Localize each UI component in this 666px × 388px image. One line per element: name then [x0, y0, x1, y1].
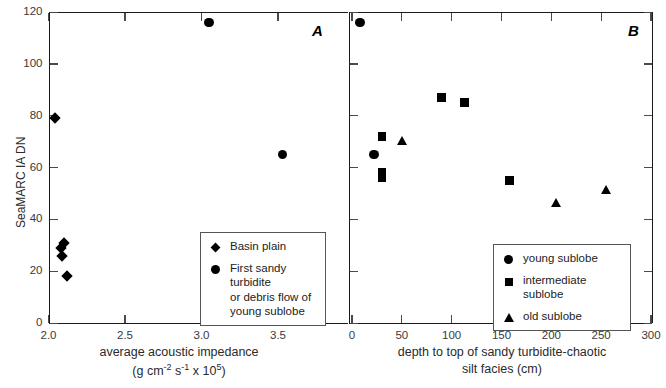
legend-item: intermediate sublobe — [502, 273, 621, 302]
x-tick-label: 2.0 — [29, 329, 69, 341]
y-tick — [50, 12, 58, 13]
data-point-circle — [355, 18, 365, 28]
x-tick — [401, 13, 402, 21]
legend-item-label: intermediate sublobe — [523, 273, 621, 302]
x-tick-label: 150 — [482, 329, 522, 341]
figure-root: SeaMARC IA DN A B 020406080100120 2.02.5… — [0, 0, 666, 388]
y-tick-label: 20 — [9, 264, 43, 276]
y-tick — [50, 219, 58, 220]
x-tick — [401, 315, 402, 323]
x-tick — [48, 315, 49, 323]
y-tick-label: 40 — [9, 212, 43, 224]
data-point-circle — [278, 150, 288, 160]
y-tick — [50, 63, 58, 64]
legend-item: Basin plain — [209, 239, 316, 254]
y-tick-label: 60 — [9, 161, 43, 173]
x-tick-label: 0 — [332, 329, 372, 341]
x-tick-label: 50 — [382, 329, 422, 341]
panel-b-x-axis-title-line1: depth to top of sandy turbidite-chaotic — [398, 345, 606, 359]
x-tick — [601, 13, 602, 21]
y-tick — [50, 323, 58, 324]
x-tick — [650, 13, 651, 21]
y-tick — [50, 271, 58, 272]
y-tick — [644, 271, 652, 272]
legend-item: old sublobe — [502, 309, 621, 324]
data-point-diamond — [61, 271, 72, 282]
legend-item: young sublobe — [502, 251, 621, 266]
x-tick-label: 200 — [531, 329, 571, 341]
square-icon — [502, 274, 516, 288]
data-point-square — [378, 132, 387, 141]
x-tick — [451, 315, 452, 323]
panel-a-label: A — [312, 22, 323, 39]
x-tick — [501, 13, 502, 21]
x-tick — [351, 13, 352, 21]
x-tick-label: 100 — [432, 329, 472, 341]
panel-b-right-spine — [652, 12, 653, 323]
y-tick-label: 0 — [9, 316, 43, 328]
data-point-triangle — [397, 136, 407, 145]
panel-b-label: B — [628, 22, 639, 39]
x-tick-label: 3.5 — [258, 329, 298, 341]
y-tick — [644, 219, 652, 220]
y-tick-label: 80 — [9, 109, 43, 121]
x-tick-label: 2.5 — [105, 329, 145, 341]
x-tick-label: 300 — [631, 329, 666, 341]
triangle-icon — [502, 310, 516, 324]
y-tick — [350, 271, 358, 272]
data-point-square — [460, 98, 469, 107]
panel-a-x-axis-title-line2: (g cm-2 s-1 x 105) — [132, 364, 225, 378]
data-point-circle — [204, 18, 214, 28]
y-tick — [644, 115, 652, 116]
y-tick — [350, 219, 358, 220]
panel-a-x-axis-title: average acoustic impedance (g cm-2 s-1 x… — [49, 344, 309, 380]
data-point-square — [437, 93, 446, 102]
data-point-circle — [369, 150, 379, 160]
data-point-square — [378, 174, 387, 183]
x-tick — [451, 13, 452, 21]
panel-b-legend: young sublobe intermediate sublobe old s… — [493, 244, 631, 331]
x-tick — [201, 13, 202, 21]
x-tick-label: 3.0 — [182, 329, 222, 341]
data-point-square — [505, 176, 514, 185]
diamond-icon — [209, 240, 223, 254]
legend-item: First sandy turbidite or debris flow of … — [209, 261, 316, 319]
x-tick — [277, 13, 278, 21]
y-tick — [50, 167, 58, 168]
panel-a-x-axis-title-line1: average acoustic impedance — [99, 345, 258, 359]
y-tick — [350, 63, 358, 64]
panel-a-legend: Basin plain First sandy turbidite or deb… — [200, 232, 326, 326]
data-point-triangle — [601, 185, 611, 194]
y-tick — [350, 115, 358, 116]
x-tick — [351, 315, 352, 323]
x-tick — [124, 13, 125, 21]
legend-item-label: old sublobe — [523, 309, 582, 323]
panel-b-x-axis-title-line2: silt facies (cm) — [462, 362, 542, 376]
y-tick-label: 120 — [9, 5, 43, 17]
panel-b-x-axis-title: depth to top of sandy turbidite-chaotic … — [352, 344, 652, 378]
circle-icon — [502, 252, 516, 266]
circle-icon — [209, 262, 223, 276]
legend-item-label: First sandy turbidite or debris flow of … — [230, 261, 316, 319]
x-tick — [124, 315, 125, 323]
y-tick — [644, 167, 652, 168]
x-tick — [650, 315, 651, 323]
x-tick — [551, 13, 552, 21]
y-tick-label: 100 — [9, 57, 43, 69]
y-tick — [644, 63, 652, 64]
legend-item-label: Basin plain — [230, 239, 286, 253]
data-point-triangle — [551, 198, 561, 207]
x-tick — [48, 13, 49, 21]
x-tick-label: 250 — [581, 329, 621, 341]
legend-item-label: young sublobe — [523, 251, 598, 265]
panel-a-top-spine — [49, 12, 348, 13]
y-tick — [350, 167, 358, 168]
